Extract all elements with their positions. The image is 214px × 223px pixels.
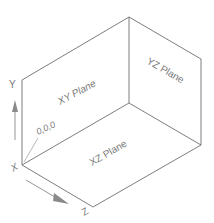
z-direction-arrow-icon: [26, 180, 69, 204]
y-direction-arrow-icon: [12, 100, 18, 140]
y-axis-label: Y: [9, 79, 16, 90]
coordinate-planes-diagram: XY Plane YZ Plane XZ Plane 0,0,0 Y X Z: [0, 0, 214, 223]
yz-plane-label: YZ Plane: [145, 55, 187, 85]
origin-label: 0,0,0: [35, 119, 57, 137]
yz-plane: [129, 17, 201, 145]
z-axis-label: Z: [80, 205, 91, 218]
x-axis-label: X: [8, 161, 20, 175]
xy-plane-label: XY Plane: [55, 77, 98, 107]
origin-leader-line: [24, 138, 38, 162]
xz-plane-label: XZ Plane: [88, 137, 130, 167]
